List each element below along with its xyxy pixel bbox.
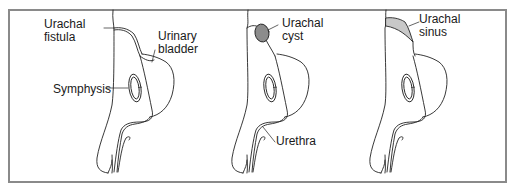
label-urethra: Urethra xyxy=(276,135,316,148)
label-urinary-bladder: Urinary bladder xyxy=(158,30,198,56)
label-urachal-fistula: Urachal fistula xyxy=(44,18,85,44)
urachal-sinus-shape xyxy=(386,18,413,42)
label-symphysis: Symphysis xyxy=(53,83,111,96)
label-urachal-sinus: Urachal sinus xyxy=(419,13,460,39)
label-urachal-cyst: Urachal cyst xyxy=(282,17,323,43)
